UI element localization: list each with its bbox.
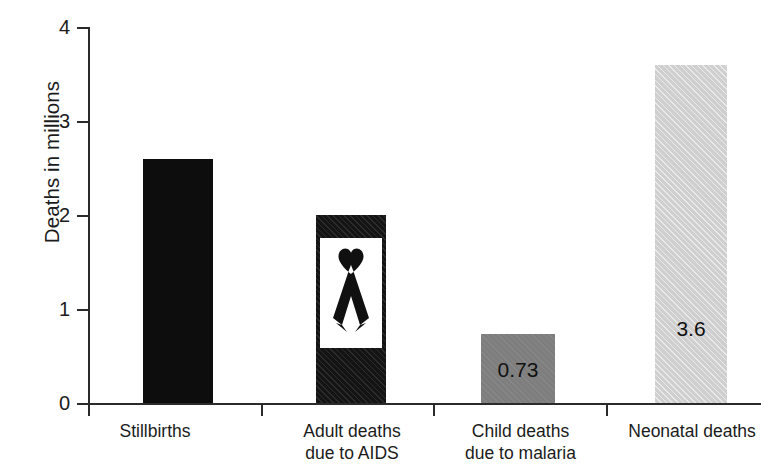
bar-chart: Deaths in millions 4 3 2 1 0 0.73 3.6 St… <box>0 0 777 473</box>
y-tick-mark-0 <box>77 403 88 405</box>
y-tick-mark-4 <box>77 27 88 29</box>
x-tick-mark-1 <box>261 405 263 416</box>
bar-value-label-neonatal-deaths: 3.6 <box>655 318 727 339</box>
y-axis-title: Deaths in millions <box>40 22 64 302</box>
x-axis-line <box>88 403 761 405</box>
y-axis-line <box>88 27 90 405</box>
bar-value-label-child-deaths-malaria: 0.73 <box>481 359 555 380</box>
x-category-label-adult-deaths-aids: Adult deaths due to AIDS <box>277 420 427 465</box>
y-tick-label-3: 3 <box>40 111 70 131</box>
x-category-label-neonatal-deaths: Neonatal deaths <box>613 420 771 442</box>
bar-neonatal-deaths[interactable] <box>655 65 727 403</box>
y-tick-label-2: 2 <box>40 205 70 225</box>
y-tick-mark-1 <box>77 309 88 311</box>
y-tick-label-1: 1 <box>40 299 70 319</box>
y-tick-label-0: 0 <box>40 393 70 413</box>
y-tick-mark-3 <box>77 121 88 123</box>
x-tick-mark-0 <box>88 405 90 416</box>
bar-stillbirths[interactable] <box>143 159 213 403</box>
aids-ribbon-panel <box>320 238 382 348</box>
x-category-label-stillbirths: Stillbirths <box>95 420 215 442</box>
aids-ribbon-icon <box>325 244 377 342</box>
y-tick-mark-2 <box>77 215 88 217</box>
x-tick-mark-2 <box>433 405 435 416</box>
x-tick-mark-3 <box>606 405 608 416</box>
y-tick-label-4: 4 <box>40 17 70 37</box>
x-category-label-child-deaths-malaria: Child deaths due to malaria <box>443 420 598 465</box>
